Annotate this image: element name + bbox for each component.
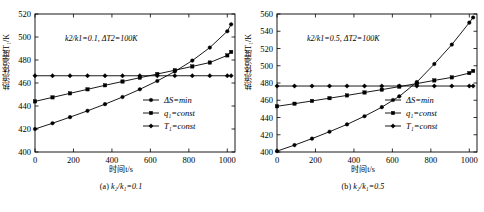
data-point-marker (363, 114, 367, 118)
data-point-marker (229, 50, 232, 53)
caption-a: (a) k₂/k₁=0.1 (0, 182, 242, 191)
panel-a: 热流体温度T₁/K 400420440460480500520020040060… (0, 0, 242, 212)
data-point-marker (51, 121, 55, 125)
data-point-marker (380, 105, 384, 109)
plot-annotation: k2/k1=0.1, ΔT2=100K (65, 34, 138, 43)
legend-item-ΔS=min[interactable]: ΔS=min (143, 95, 192, 105)
y-tick-label: 440 (260, 113, 273, 123)
data-point-marker (149, 124, 153, 128)
data-point-marker (85, 74, 89, 78)
legend-label: q₁=const (164, 108, 196, 118)
data-point-marker (275, 84, 279, 88)
x-axis-label-b: 时间t/s (242, 163, 484, 174)
y-tick-label: 540 (260, 26, 273, 36)
y-tick-label: 460 (18, 78, 31, 88)
series-T1=const (275, 84, 476, 88)
y-tick-label: 480 (260, 78, 273, 88)
legend-item-q1=const[interactable]: q₁=const (385, 108, 438, 118)
series-line (35, 52, 231, 101)
caption-b-prefix: (b) (342, 182, 352, 191)
series-T1=const (33, 74, 234, 78)
data-point-marker (173, 74, 177, 78)
series-q1=const (33, 50, 233, 103)
data-point-marker (328, 130, 332, 134)
data-point-marker (190, 74, 194, 78)
data-point-marker (345, 94, 348, 97)
y-tick-label: 400 (18, 147, 31, 157)
y-tick-label: 420 (260, 130, 273, 140)
data-point-marker (391, 111, 394, 114)
data-point-marker (33, 100, 36, 103)
data-point-marker (432, 84, 436, 88)
data-point-marker (149, 111, 152, 114)
data-point-marker (433, 79, 436, 82)
data-point-marker (327, 84, 331, 88)
data-point-marker (450, 43, 454, 47)
figure-container: 热流体温度T₁/K 400420440460480500520020040060… (0, 0, 484, 212)
data-point-marker (471, 84, 475, 88)
y-tick-label: 400 (260, 147, 273, 157)
data-point-marker (121, 80, 124, 83)
data-point-marker (450, 76, 453, 79)
plot-area-b: 4004204404604805005205405600200400600800… (242, 0, 484, 178)
data-point-marker (391, 98, 395, 102)
data-point-marker (68, 115, 72, 119)
series-q1=const (275, 69, 475, 108)
data-point-marker (103, 102, 107, 106)
y-tick-label: 520 (18, 9, 31, 19)
data-point-marker (310, 84, 314, 88)
data-point-marker (149, 98, 153, 102)
y-tick-label: 460 (260, 95, 273, 105)
data-point-marker (156, 79, 160, 83)
caption-b-expr: k₂/k₁=0.5 (353, 182, 384, 191)
data-point-marker (345, 84, 349, 88)
data-point-marker (51, 96, 54, 99)
data-point-marker (226, 54, 229, 57)
data-point-marker (363, 91, 366, 94)
data-point-marker (310, 99, 313, 102)
data-point-marker (33, 127, 37, 131)
y-tick-label: 520 (260, 44, 273, 54)
y-tick-label: 440 (18, 101, 31, 111)
legend-item-q1=const[interactable]: q₁=const (143, 108, 196, 118)
legend-label: T₁=const (164, 121, 196, 131)
data-point-marker (33, 74, 37, 78)
data-point-marker (468, 71, 471, 74)
data-point-marker (345, 123, 349, 127)
series-line (277, 71, 473, 106)
caption-a-expr: k₂/k₁=0.1 (111, 182, 142, 191)
data-point-marker (208, 74, 212, 78)
data-point-marker (310, 137, 314, 141)
data-point-marker (468, 21, 472, 25)
y-tick-label: 420 (18, 124, 31, 134)
data-point-marker (450, 84, 454, 88)
data-point-marker (391, 124, 395, 128)
chart-svg-b: 4004204404604805005205405600200400600800… (242, 0, 484, 178)
data-point-marker (50, 74, 54, 78)
data-point-marker (275, 105, 278, 108)
data-point-marker (362, 84, 366, 88)
data-point-marker (191, 65, 194, 68)
data-point-marker (208, 61, 211, 64)
legend-label: T₁=const (406, 121, 438, 131)
caption-b: (b) k₂/k₁=0.5 (242, 182, 484, 191)
data-point-marker (173, 69, 176, 72)
plot-annotation: k2/k1=0.5, ΔT2=100K (307, 34, 380, 43)
data-point-marker (68, 74, 72, 78)
y-tick-label: 500 (260, 61, 273, 71)
data-point-marker (328, 96, 331, 99)
legend-label: q₁=const (406, 108, 438, 118)
y-tick-label: 500 (18, 32, 31, 42)
legend-item-T1=const[interactable]: T₁=const (385, 121, 438, 131)
data-point-marker (68, 92, 71, 95)
data-point-marker (120, 74, 124, 78)
data-point-marker (138, 88, 142, 92)
data-point-marker (433, 62, 437, 66)
data-point-marker (293, 143, 297, 147)
plot-area-a: 40042044046048050052002004006008001000k2… (0, 0, 242, 178)
legend-item-ΔS=min[interactable]: ΔS=min (385, 95, 434, 105)
y-tick-label: 560 (260, 9, 273, 19)
chart-svg-a: 40042044046048050052002004006008001000k2… (0, 0, 242, 178)
legend-item-T1=const[interactable]: T₁=const (143, 121, 196, 131)
data-point-marker (471, 16, 475, 20)
